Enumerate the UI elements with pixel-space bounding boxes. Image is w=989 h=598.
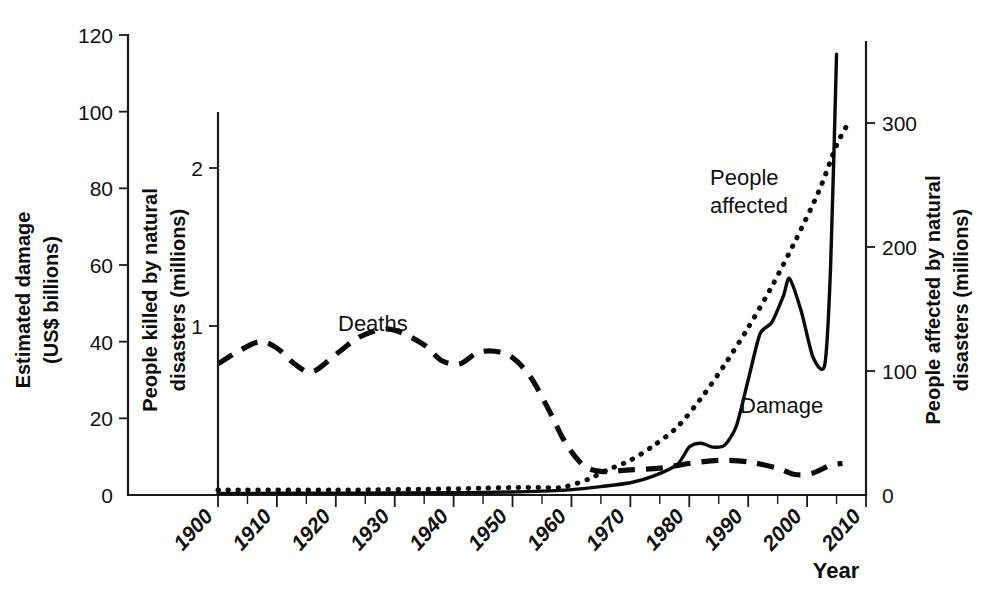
chart-canvas: 020406080100120 Estimated damage (US$ bi… xyxy=(0,0,989,598)
damage-label: Damage xyxy=(740,393,823,418)
middle-axis-tick-label: 2 xyxy=(191,157,203,180)
right-axis: 0100200300 xyxy=(866,42,917,507)
x-axis-tick-label: 1900 xyxy=(169,504,218,554)
x-axis-tick-label: 2010 xyxy=(816,504,865,555)
x-axis-ticks xyxy=(218,495,866,507)
left-axis-title: Estimated damage (US$ billions) xyxy=(12,212,62,389)
right-axis-tick-label: 200 xyxy=(882,236,917,259)
x-axis-tick-labels: 1900191019201930194019501960197019801990… xyxy=(169,504,866,555)
x-axis-tick-label: 1960 xyxy=(522,504,571,554)
x-axis-title: Year xyxy=(813,558,860,583)
middle-axis-title-line1: People killed by natural xyxy=(139,188,161,411)
middle-axis-title: People killed by natural disasters (mill… xyxy=(139,188,189,411)
left-axis-tick-label: 60 xyxy=(90,254,113,277)
left-axis-ticks xyxy=(119,35,128,418)
deaths-label: Deaths xyxy=(338,311,408,336)
left-axis-tick-label: 120 xyxy=(78,24,113,47)
left-axis-tick-label: 40 xyxy=(90,331,113,354)
right-axis-title-line1: People affected by natural xyxy=(922,176,944,425)
people-affected-label-line1: People xyxy=(710,165,779,190)
left-axis-tick-label: 100 xyxy=(78,101,113,124)
right-axis-tick-label: 0 xyxy=(882,484,894,507)
x-axis-tick-label: 1930 xyxy=(345,504,394,554)
right-axis-ticks xyxy=(866,123,875,371)
left-axis-tick-label: 0 xyxy=(101,484,113,507)
left-axis-tick-label: 80 xyxy=(90,177,113,200)
x-axis-tick-label: 1940 xyxy=(404,504,453,554)
middle-axis-ticks xyxy=(209,168,218,326)
right-axis-title-line2: disasters (millions) xyxy=(950,209,972,391)
right-axis-title: People affected by natural disasters (mi… xyxy=(922,176,972,425)
middle-axis-tick-label: 1 xyxy=(191,315,203,338)
right-axis-tick-labels: 0100200300 xyxy=(882,112,917,507)
x-axis-tick-label: 1910 xyxy=(228,504,277,554)
chart-figure: 020406080100120 Estimated damage (US$ bi… xyxy=(0,0,989,598)
middle-axis-tick-labels: 12 xyxy=(191,157,203,338)
x-axis-tick-label: 1920 xyxy=(286,504,335,554)
x-axis: 1900191019201930194019501960197019801990… xyxy=(169,495,866,555)
left-axis-title-line1: Estimated damage xyxy=(12,212,34,389)
middle-axis-title-line2: disasters (millions) xyxy=(167,209,189,391)
series-damage xyxy=(218,54,837,493)
middle-axis: 12 xyxy=(191,113,218,495)
x-axis-tick-label: 2000 xyxy=(757,504,806,555)
x-axis-tick-label: 1980 xyxy=(640,504,689,554)
people-affected-label-line2: affected xyxy=(710,193,788,218)
x-axis-tick-label: 1990 xyxy=(699,504,748,554)
right-axis-tick-label: 300 xyxy=(882,112,917,135)
right-axis-tick-label: 100 xyxy=(882,360,917,383)
x-axis-tick-label: 1970 xyxy=(581,504,630,554)
left-axis-tick-label: 20 xyxy=(90,407,113,430)
left-axis-title-line2: (US$ billions) xyxy=(40,236,62,364)
x-axis-tick-label: 1950 xyxy=(463,504,512,554)
left-axis-tick-labels: 020406080100120 xyxy=(78,24,113,507)
